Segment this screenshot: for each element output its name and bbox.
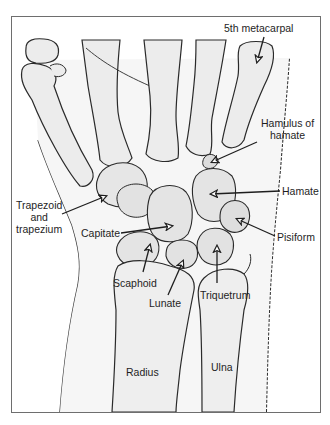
label-ulna: Ulna [211,361,233,373]
label-trapezoid-and-trapezium: Trapezoid and trapezium [16,199,62,235]
triquetrum [197,228,233,265]
label-lunate: Lunate [149,297,181,309]
capitate [147,186,192,242]
label-hamulus-line1: Hamulus of [261,117,314,129]
label-hamulus-line2: hamate [261,129,314,141]
label-pisiform: Pisiform [277,231,315,243]
label-hamate: Hamate [282,185,319,197]
label-hamulus-of-hamate: Hamulus of hamate [261,117,314,141]
label-trapezoid-line1: Trapezoid [16,199,62,211]
label-5th-metacarpal: 5th metacarpal [224,22,293,34]
label-capitate: Capitate [81,227,120,239]
hamulus [203,154,218,168]
pisiform [220,201,250,233]
label-radius: Radius [126,366,159,378]
thumb-phalanx [26,39,59,63]
label-trapezoid-line3: trapezium [16,223,62,235]
label-triquetrum: Triquetrum [200,289,250,301]
label-trapezoid-line2: and [16,211,62,223]
label-scaphoid: Scaphoid [113,277,157,289]
